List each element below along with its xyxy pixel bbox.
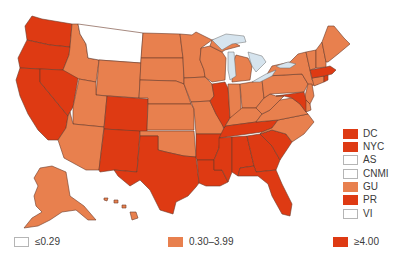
- legend-swatch: [343, 209, 358, 219]
- legend-swatch-high: [333, 237, 348, 247]
- legend-label: NYC: [363, 141, 384, 153]
- legend-swatch: [343, 195, 358, 205]
- legend-swatch-low: [14, 237, 29, 247]
- state-WY: [96, 60, 141, 98]
- state-ND: [141, 33, 183, 58]
- legend-mid: 0.30–3.99: [168, 236, 234, 247]
- state-KS: [147, 104, 194, 130]
- legend-label-low: ≤0.29: [35, 236, 60, 247]
- legend-swatch: [343, 129, 358, 139]
- legend-label-high: ≥4.00: [354, 236, 379, 247]
- state-FL: [238, 166, 292, 216]
- legend-item-vi: VI: [343, 207, 389, 220]
- territory-legend: DC NYC AS CNMI GU PR VI: [343, 127, 389, 221]
- legend-label: VI: [363, 208, 372, 220]
- legend-label: GU: [363, 181, 378, 193]
- legend-item-as: AS: [343, 154, 389, 167]
- legend-label: AS: [363, 154, 376, 166]
- us-choropleth-map: [0, 0, 402, 255]
- legend-swatch-mid: [168, 237, 183, 247]
- legend-item-cnmi: CNMI: [343, 167, 389, 180]
- state-CO: [104, 96, 148, 132]
- legend-swatch: [343, 142, 358, 152]
- legend-label-mid: 0.30–3.99: [189, 236, 234, 247]
- legend-item-nyc: NYC: [343, 140, 389, 153]
- state-AK: [24, 166, 96, 228]
- legend-swatch: [343, 155, 358, 165]
- legend-label: PR: [363, 194, 377, 206]
- legend-label: CNMI: [363, 168, 389, 180]
- legend-swatch: [343, 182, 358, 192]
- legend-item-gu: GU: [343, 181, 389, 194]
- legend-item-dc: DC: [343, 127, 389, 140]
- legend-swatch: [343, 169, 358, 179]
- legend-label: DC: [363, 128, 377, 140]
- legend-low: ≤0.29: [14, 236, 60, 247]
- legend-item-pr: PR: [343, 194, 389, 207]
- state-HI: [104, 198, 138, 220]
- state-ME: [322, 26, 350, 62]
- state-NM: [99, 129, 140, 172]
- state-MT: [78, 24, 143, 63]
- lake-michigan: [228, 52, 236, 80]
- legend-high: ≥4.00: [333, 236, 379, 247]
